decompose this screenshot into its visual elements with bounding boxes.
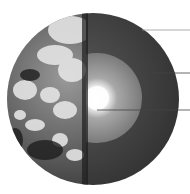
earth-layers-diagram [0,0,190,194]
inner-core-layer [85,86,109,110]
earth-sphere [0,0,190,194]
cut-edge [82,0,88,194]
